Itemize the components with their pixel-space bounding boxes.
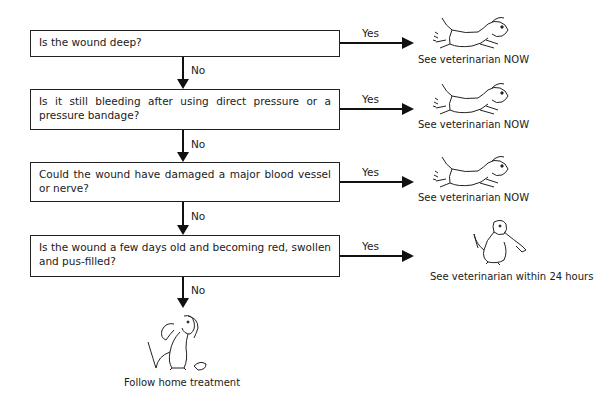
yes-arrow-2	[340, 108, 404, 110]
yes-label-3: Yes	[362, 166, 379, 178]
yes-arrow-3	[340, 181, 404, 183]
no-arrow-1	[182, 57, 184, 81]
yes-arrow-4	[340, 255, 404, 257]
sitting-dog-phone-icon	[468, 218, 534, 266]
arrowhead-down-icon	[177, 225, 189, 235]
yes-label-2: Yes	[362, 93, 379, 105]
no-arrow-2	[182, 130, 184, 154]
no-label-4: No	[191, 284, 205, 296]
arrowhead-down-icon	[177, 152, 189, 162]
outcome-label-1: See veterinarian NOW	[418, 54, 528, 65]
no-label-3: No	[191, 210, 205, 222]
outcome-label-3: See veterinarian NOW	[418, 192, 528, 203]
arrowhead-down-icon	[177, 298, 189, 308]
final-label: Follow home treatment	[112, 377, 252, 388]
no-label-2: No	[191, 138, 205, 150]
no-arrow-4	[182, 277, 184, 299]
running-dog-icon	[432, 153, 514, 193]
arrowhead-right-icon	[402, 250, 414, 262]
yes-label-4: Yes	[362, 240, 379, 252]
sitting-dog-icon	[144, 312, 210, 374]
yes-arrow-1	[340, 42, 404, 44]
arrowhead-right-icon	[402, 103, 414, 115]
question-box-2: Is it still bleeding after using direct …	[30, 89, 340, 130]
arrowhead-down-icon	[177, 79, 189, 89]
outcome-label-4: See veterinarian within 24 hours	[430, 271, 580, 282]
yes-label-1: Yes	[362, 27, 379, 39]
arrowhead-right-icon	[402, 37, 414, 49]
no-label-1: No	[191, 64, 205, 76]
no-arrow-3	[182, 202, 184, 226]
outcome-label-2: See veterinarian NOW	[418, 119, 528, 130]
question-box-4: Is the wound a few days old and becoming…	[30, 235, 340, 277]
arrowhead-right-icon	[402, 176, 414, 188]
question-box-1: Is the wound deep?	[30, 30, 340, 57]
running-dog-icon	[432, 14, 514, 54]
running-dog-icon	[432, 80, 514, 120]
question-box-3: Could the wound have damaged a major blo…	[30, 162, 340, 202]
